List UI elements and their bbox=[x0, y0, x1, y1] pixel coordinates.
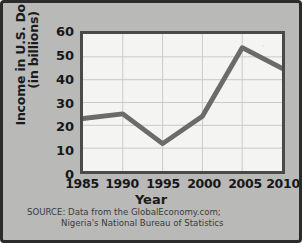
y-tick-60: 60 bbox=[56, 24, 74, 39]
x-tick-2005: 2005 bbox=[228, 176, 262, 191]
source-note: SOURCE: Data from the GlobalEconomy.com;… bbox=[27, 207, 224, 230]
plot-area-wrapper: 0 10 20 30 40 50 60 1985 1990 1995 2000 … bbox=[80, 31, 285, 174]
y-tick-10: 10 bbox=[56, 143, 74, 158]
x-tick-1985: 1985 bbox=[65, 176, 99, 191]
plot-area bbox=[80, 31, 285, 174]
y-tick-40: 40 bbox=[56, 71, 74, 86]
x-tick-2000: 2000 bbox=[187, 176, 221, 191]
y-axis-title: Income in U.S. Dollars (in billions) bbox=[5, 0, 49, 126]
y-tick-20: 20 bbox=[56, 119, 74, 134]
data-series-line bbox=[83, 48, 282, 144]
x-axis-title: Year bbox=[3, 192, 299, 207]
x-tick-1995: 1995 bbox=[146, 176, 180, 191]
x-tick-1990: 1990 bbox=[105, 176, 139, 191]
x-tick-2010: 2010 bbox=[266, 176, 300, 191]
y-tick-50: 50 bbox=[56, 47, 74, 62]
y-tick-30: 30 bbox=[56, 95, 74, 110]
chart-figure: Income in U.S. Dollars (in billions) bbox=[0, 0, 302, 243]
y-axis-title-line-2: (in billions) bbox=[27, 11, 40, 88]
gridlines-horizontal bbox=[83, 57, 282, 148]
chart-svg bbox=[83, 34, 282, 171]
source-note-line-2: Nigeria's National Bureau of Statistics bbox=[27, 218, 224, 229]
source-note-line-1: SOURCE: Data from the GlobalEconomy.com; bbox=[27, 207, 224, 218]
